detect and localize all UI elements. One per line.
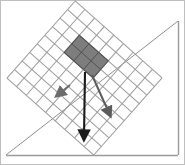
figure-frame (1, 1, 185, 165)
load-arrow-vertical (84, 72, 85, 136)
figure-canvas (0, 0, 185, 165)
figure-svg (0, 0, 185, 165)
